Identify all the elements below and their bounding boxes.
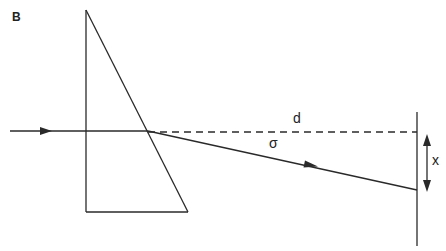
label-x: x bbox=[432, 153, 439, 167]
displacement-double-arrow bbox=[423, 134, 431, 192]
refracted-arrow-icon bbox=[304, 161, 319, 168]
prism bbox=[86, 10, 188, 212]
prism-deflection-diagram bbox=[0, 0, 446, 251]
incident-arrow-icon bbox=[40, 127, 52, 135]
label-sigma: σ bbox=[269, 136, 278, 150]
label-d: d bbox=[293, 111, 301, 125]
refracted-ray bbox=[148, 131, 417, 190]
panel-label: B bbox=[12, 11, 21, 23]
incident-ray bbox=[10, 127, 148, 135]
arrow-up-icon bbox=[423, 134, 431, 146]
arrow-down-icon bbox=[423, 180, 431, 192]
